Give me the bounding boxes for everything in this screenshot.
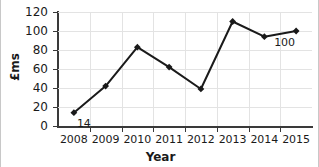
data-point-annotation: 14: [77, 118, 91, 129]
x-tick-mark: [185, 127, 186, 132]
data-series-line: [58, 12, 312, 126]
plot-area: 14100: [58, 12, 312, 126]
x-tick-mark: [217, 127, 218, 132]
x-tick-mark: [153, 127, 154, 132]
data-point-marker: [293, 28, 300, 35]
line-chart-figure: 020406080100120 200820092010201120122013…: [0, 0, 319, 167]
x-tick-label: 2015: [276, 134, 316, 146]
data-point-marker: [229, 18, 236, 25]
x-tick-mark: [122, 127, 123, 132]
y-tick-label: 20: [2, 101, 48, 113]
y-tick-label: 0: [2, 120, 48, 132]
y-tick-mark: [53, 126, 58, 127]
y-tick-label: 100: [2, 25, 48, 37]
x-axis-label: Year: [1, 150, 319, 164]
y-axis-label: £ms: [8, 37, 22, 97]
x-tick-mark: [249, 127, 250, 132]
data-point-marker: [261, 33, 268, 40]
x-tick-mark: [280, 127, 281, 132]
data-point-annotation: 100: [274, 37, 295, 48]
y-tick-label: 120: [2, 6, 48, 18]
